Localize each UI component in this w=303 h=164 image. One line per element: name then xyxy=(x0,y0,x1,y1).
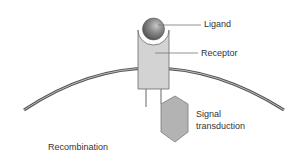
signal-transduction-label-line2: transduction xyxy=(196,121,245,132)
receptor-label: Receptor xyxy=(201,48,238,59)
receptor-diagram xyxy=(0,0,303,164)
ligand-sphere xyxy=(143,18,165,40)
signal-transduction-label-line1: Signal xyxy=(196,109,221,120)
ligand xyxy=(141,17,167,43)
signal-transduction-hexagon xyxy=(161,96,188,142)
ligand-label: Ligand xyxy=(204,19,231,30)
recombination-label: Recombination xyxy=(48,142,108,153)
